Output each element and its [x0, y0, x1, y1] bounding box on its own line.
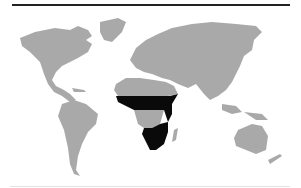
- caribbean: [72, 88, 86, 92]
- new-zealand: [268, 154, 282, 164]
- south-america: [58, 100, 98, 176]
- world-map: [0, 0, 301, 188]
- australia: [234, 124, 268, 154]
- greenland: [100, 18, 126, 42]
- madagascar: [172, 128, 178, 142]
- southeast-asia: [222, 104, 268, 120]
- bottom-rule: [10, 186, 290, 187]
- north-africa: [114, 78, 178, 96]
